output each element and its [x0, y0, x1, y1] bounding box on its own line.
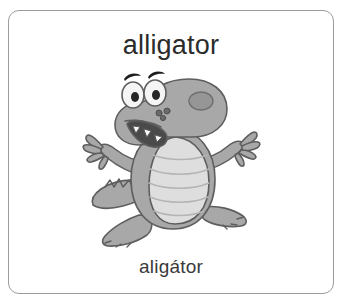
- eyebrows: [124, 72, 165, 81]
- flashcard: alligator: [8, 10, 334, 294]
- belly-shape: [149, 137, 209, 224]
- alligator-icon: [81, 69, 261, 251]
- left-pupil: [131, 92, 139, 102]
- cheek-marking: [189, 92, 213, 110]
- page-title: alligator: [9, 30, 333, 61]
- card-caption: aligátor: [9, 255, 333, 278]
- alligator-illustration: [81, 69, 261, 251]
- right-pupil: [152, 90, 160, 100]
